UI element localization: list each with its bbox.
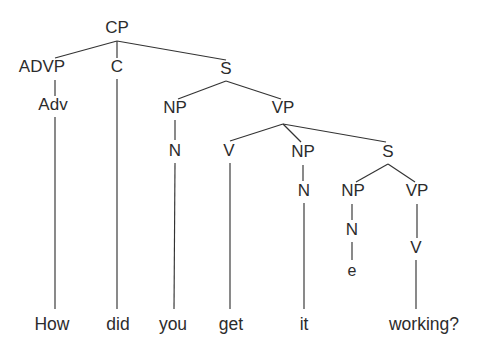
leaf-you: you <box>159 314 187 334</box>
tree-edge-s2-vp2 <box>388 164 415 182</box>
tree-node-adv: Adv <box>38 95 68 114</box>
tree-edge-vp1-v1 <box>230 124 283 141</box>
tree-node-cp: CP <box>105 18 129 37</box>
tree-edge-layer <box>55 41 417 309</box>
tree-node-np2: NP <box>291 142 315 161</box>
tree-edge-s1-vp1 <box>226 81 281 99</box>
tree-node-n3: N <box>346 220 358 239</box>
tree-node-vp2: VP <box>406 181 429 200</box>
syntax-tree-canvas: CPADVPCSAdvNPVPNVNPSNNPVPNVe Howdidyouge… <box>0 0 483 356</box>
tree-node-v1: V <box>223 141 235 160</box>
leaf-get: get <box>219 314 243 334</box>
tree-node-s2: S <box>382 142 393 161</box>
tree-node-advp: ADVP <box>19 57 65 76</box>
tree-node-n2: N <box>298 181 310 200</box>
tree-edge-s1-np1 <box>178 81 226 99</box>
tree-leaf-layer: Howdidyougetitworking? <box>34 314 459 334</box>
tree-node-n1: N <box>169 141 181 160</box>
tree-node-layer: CPADVPCSAdvNPVPNVNPSNNPVPNVe <box>19 18 428 279</box>
tree-node-np1: NP <box>163 98 187 117</box>
leaf-did: did <box>106 314 129 334</box>
tree-node-np3: NP <box>341 181 365 200</box>
tree-edge-cp-s <box>117 41 226 60</box>
tree-node-s1: S <box>220 59 231 78</box>
tree-node-v2: V <box>410 238 422 257</box>
tree-edge-s2-np3 <box>356 164 388 182</box>
tree-node-vp1: VP <box>272 98 295 117</box>
leaf-working: working? <box>388 314 459 334</box>
tree-node-empty: e <box>348 262 357 279</box>
tree-node-c: C <box>111 57 123 76</box>
leaf-it: it <box>300 314 309 334</box>
tree-edge-n1-you <box>174 163 175 309</box>
syntax-tree-figure: CPADVPCSAdvNPVPNVNPSNNPVPNVe Howdidyouge… <box>0 0 483 356</box>
tree-edge-cp-advp <box>55 41 117 58</box>
leaf-how: How <box>34 314 69 334</box>
